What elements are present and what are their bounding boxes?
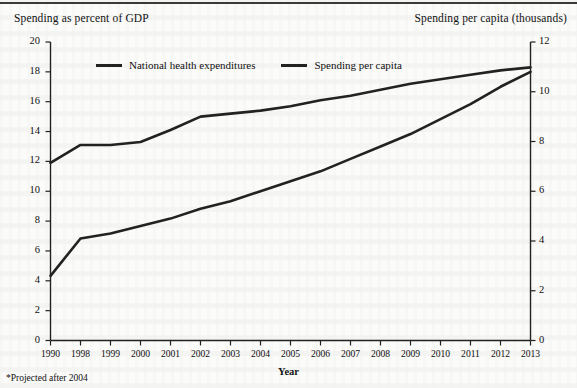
left-axis-tick-label: 2 bbox=[18, 304, 40, 315]
left-axis-tick-label: 6 bbox=[18, 244, 40, 255]
chart-footnote: *Projected after 2004 bbox=[6, 373, 88, 383]
series-line-spending-per-capita bbox=[51, 72, 531, 276]
right-axis-tick-label: 8 bbox=[539, 135, 561, 146]
right-axis-tick-label: 2 bbox=[539, 284, 561, 295]
left-axis-tick-label: 8 bbox=[18, 214, 40, 225]
plot-area bbox=[0, 0, 577, 388]
right-axis-tick-label: 0 bbox=[539, 334, 561, 345]
left-axis-tick-label: 4 bbox=[18, 274, 40, 285]
right-axis-tick-label: 4 bbox=[539, 234, 561, 245]
x-axis-tick-label: 2013 bbox=[511, 348, 551, 359]
series-line-national-health-expenditures bbox=[51, 67, 531, 163]
left-axis-tick-label: 0 bbox=[18, 334, 40, 345]
left-axis-tick-label: 12 bbox=[18, 154, 40, 165]
right-axis-tick-label: 12 bbox=[539, 35, 561, 46]
right-axis-tick-label: 10 bbox=[539, 85, 561, 96]
left-axis-tick-label: 20 bbox=[18, 35, 40, 46]
left-axis-tick-label: 14 bbox=[18, 125, 40, 136]
right-axis-ticks bbox=[531, 42, 536, 341]
axes-group bbox=[51, 42, 531, 341]
left-axis-tick-label: 16 bbox=[18, 95, 40, 106]
spending-chart: Spending as percent of GDP Spending per … bbox=[0, 0, 577, 388]
x-axis-ticks bbox=[51, 341, 531, 346]
left-axis-tick-label: 18 bbox=[18, 65, 40, 76]
data-series-group bbox=[51, 67, 531, 275]
left-axis-ticks bbox=[46, 42, 51, 341]
left-axis-tick-label: 10 bbox=[18, 184, 40, 195]
right-axis-tick-label: 6 bbox=[539, 184, 561, 195]
